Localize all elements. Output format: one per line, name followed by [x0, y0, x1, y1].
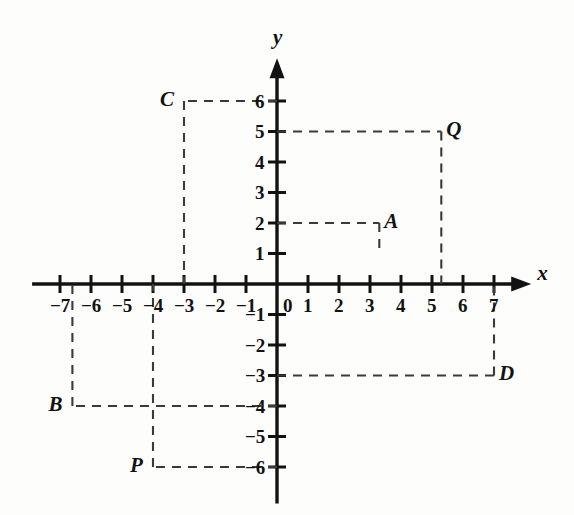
y-tick-label: 2: [255, 214, 265, 233]
x-axis-label: x: [537, 263, 548, 284]
point-label-q: Q: [446, 119, 461, 140]
y-tick-label: 1: [255, 244, 265, 263]
y-tick-label: −4: [245, 397, 265, 416]
origin-label: 0: [283, 296, 293, 315]
x-tick-label: −2: [205, 296, 225, 315]
y-tick-label: 4: [255, 153, 265, 172]
x-tick-label: 2: [334, 296, 344, 315]
y-tick-label: −2: [245, 336, 265, 355]
plot-canvas: [0, 0, 574, 515]
x-tick-label: −6: [81, 296, 101, 315]
x-tick-label: 4: [396, 296, 406, 315]
y-tick-label: 6: [255, 92, 265, 111]
y-axis-arrowhead: [270, 58, 285, 78]
x-tick-label: −5: [112, 296, 132, 315]
point-label-c: C: [160, 89, 174, 110]
x-tick-label: 1: [303, 296, 313, 315]
x-tick-label: −3: [174, 296, 194, 315]
y-tick-label: −5: [245, 427, 265, 446]
x-tick-label: 5: [427, 296, 437, 315]
x-tick-label: 6: [458, 296, 468, 315]
x-tick-label: −4: [143, 296, 163, 315]
coordinate-plane-figure: −7−6−5−4−3−2−11234567654321−1−2−3−4−5−60…: [0, 0, 574, 515]
y-tick-label: 3: [255, 183, 265, 202]
x-tick-label: 7: [489, 296, 499, 315]
y-tick-label: 5: [255, 122, 265, 141]
point-label-b: B: [48, 394, 62, 415]
y-tick-label: −1: [245, 305, 265, 324]
point-label-p: P: [130, 455, 143, 476]
x-axis-arrowhead: [511, 277, 531, 292]
point-label-a: A: [384, 211, 398, 232]
x-tick-label: 3: [365, 296, 375, 315]
y-tick-label: −6: [245, 458, 265, 477]
y-tick-label: −3: [245, 366, 265, 385]
x-tick-label: −7: [50, 296, 70, 315]
y-axis-label: y: [273, 27, 282, 48]
point-label-d: D: [499, 363, 514, 384]
